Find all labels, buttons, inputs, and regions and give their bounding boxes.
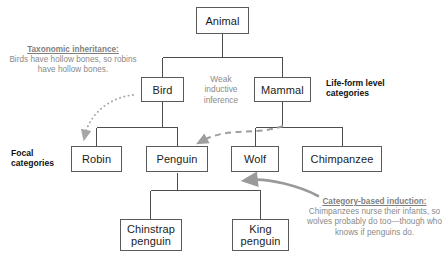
label-focal-categories: Focal categories bbox=[11, 148, 71, 169]
node-penguin-label: Penguin bbox=[156, 153, 197, 165]
annotation-weak-inductive-inference: Weak inductive inference bbox=[192, 74, 250, 105]
annotation-weak-inductive-inference-line3: inference bbox=[192, 95, 250, 105]
node-penguin[interactable]: Penguin bbox=[146, 146, 208, 172]
node-robin[interactable]: Robin bbox=[71, 146, 122, 172]
label-lifeform-level-categories-line2: categories bbox=[326, 88, 436, 98]
node-chinstrap-penguin-label-line2: penguin bbox=[131, 235, 171, 248]
label-focal-categories-line1: Focal bbox=[11, 148, 71, 158]
node-king-penguin[interactable]: King penguin bbox=[232, 219, 289, 251]
node-wolf-label: Wolf bbox=[244, 153, 266, 165]
annotation-weak-inductive-inference-line1: Weak bbox=[192, 74, 250, 84]
diagram-canvas: Animal Bird Mammal Robin Penguin Wolf Ch… bbox=[0, 0, 446, 270]
label-focal-categories-line2: categories bbox=[11, 158, 71, 168]
node-robin-label: Robin bbox=[82, 153, 111, 165]
node-mammal-label: Mammal bbox=[261, 84, 304, 96]
node-bird[interactable]: Bird bbox=[141, 77, 184, 102]
node-chimpanzee[interactable]: Chimpanzee bbox=[302, 146, 382, 172]
node-wolf[interactable]: Wolf bbox=[231, 146, 279, 172]
annotation-taxonomic-inheritance-heading: Taxonomic inheritance: bbox=[8, 45, 138, 55]
node-animal[interactable]: Animal bbox=[196, 7, 249, 34]
annotation-taxonomic-inheritance: Taxonomic inheritance: Birds have hollow… bbox=[8, 45, 138, 76]
node-animal-label: Animal bbox=[205, 15, 239, 27]
node-bird-label: Bird bbox=[153, 84, 173, 96]
node-mammal[interactable]: Mammal bbox=[254, 77, 311, 102]
arrow-weak-inductive-to-penguin bbox=[202, 126, 283, 141]
annotation-weak-inductive-inference-line2: inductive bbox=[192, 84, 250, 94]
node-king-penguin-label-line2: penguin bbox=[241, 235, 281, 248]
node-chimpanzee-label: Chimpanzee bbox=[311, 153, 374, 165]
node-chinstrap-penguin-label-line1: Chinstrap bbox=[127, 223, 175, 236]
annotation-category-based-induction: Category-based induction: Chimpanzees nu… bbox=[307, 197, 442, 238]
arrow-taxonomic-to-robin bbox=[85, 95, 133, 135]
node-chinstrap-penguin[interactable]: Chinstrap penguin bbox=[120, 219, 182, 251]
label-lifeform-level-categories: Life-form level categories bbox=[326, 78, 436, 99]
label-lifeform-level-categories-line1: Life-form level bbox=[326, 78, 436, 88]
node-king-penguin-label-line1: King bbox=[249, 223, 271, 236]
arrow-category-based-to-wolf bbox=[250, 180, 318, 196]
annotation-category-based-induction-heading: Category-based induction: bbox=[307, 197, 442, 207]
annotation-category-based-induction-body: Chimpanzees nurse their infants, so wolv… bbox=[307, 207, 442, 238]
annotation-taxonomic-inheritance-body: Birds have hollow bones, so robins have … bbox=[8, 55, 138, 75]
